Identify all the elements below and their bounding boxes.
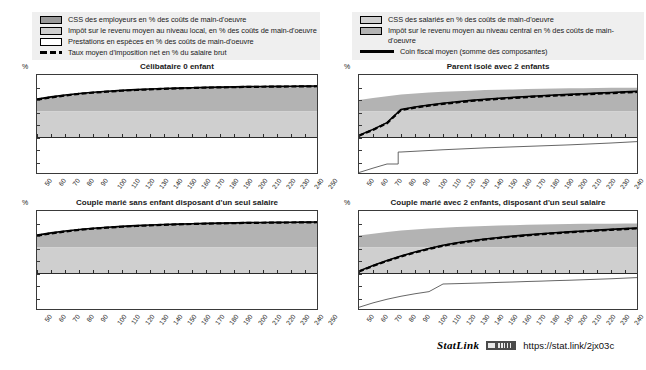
x-tick-label: 150 bbox=[186, 177, 198, 190]
x-tick-label: 130 bbox=[479, 177, 491, 190]
x-tick-mark bbox=[192, 134, 193, 138]
legend-left: CSS des employeurs en % des coûts de mai… bbox=[32, 12, 320, 60]
x-tick-label: 70 bbox=[393, 177, 403, 187]
x-tick-mark bbox=[178, 270, 179, 274]
x-tick-label: 190 bbox=[563, 313, 575, 326]
x-tick-mark bbox=[443, 134, 444, 138]
y-tick-mark bbox=[359, 138, 362, 139]
x-tick-mark bbox=[401, 270, 402, 274]
x-tick-mark bbox=[555, 270, 556, 274]
chart-panel-couple-2-enfants: Couple marié avec 2 enfants, disposant d… bbox=[326, 198, 646, 344]
x-tick-label: 50 bbox=[365, 313, 375, 323]
x-tick-label: 90 bbox=[421, 313, 431, 323]
area-central-income-tax bbox=[359, 223, 638, 247]
area-central-income-tax bbox=[37, 86, 318, 111]
x-tick-mark bbox=[263, 134, 264, 138]
x-tick-label: 100 bbox=[115, 177, 127, 190]
x-tick-mark bbox=[457, 134, 458, 138]
x-tick-label: 240 bbox=[313, 313, 325, 326]
x-tick-mark bbox=[93, 270, 94, 274]
y-tick-mark bbox=[37, 150, 40, 151]
x-tick-label: 140 bbox=[172, 313, 184, 326]
x-tick-mark bbox=[583, 134, 584, 138]
x-tick-mark bbox=[277, 134, 278, 138]
statlink-url[interactable]: https://stat.link/2jx03c bbox=[523, 340, 614, 351]
x-tick-mark bbox=[79, 134, 80, 138]
legend-label: Taux moyen d'imposition net en % du sala… bbox=[68, 48, 226, 58]
x-tick-mark bbox=[206, 270, 207, 274]
y-tick-mark bbox=[37, 88, 40, 89]
x-tick-label: 120 bbox=[465, 313, 477, 326]
x-tick-label: 230 bbox=[298, 313, 310, 326]
x-tick-label: 220 bbox=[284, 177, 296, 190]
legend-item-tax-wedge: Coin fiscal moyen (somme des composantes… bbox=[360, 47, 644, 58]
legend-label: CSS des employeurs en % des coûts de mai… bbox=[68, 15, 246, 25]
x-tick-label: 80 bbox=[407, 313, 417, 323]
x-tick-label: 100 bbox=[115, 313, 127, 326]
x-tick-label: 70 bbox=[393, 313, 403, 323]
x-tick-mark bbox=[305, 270, 306, 274]
x-tick-mark bbox=[555, 134, 556, 138]
x-tick-mark bbox=[164, 134, 165, 138]
x-tick-label: 140 bbox=[493, 313, 505, 326]
x-tick-mark bbox=[150, 270, 151, 274]
x-tick-label: 190 bbox=[242, 177, 254, 190]
x-tick-mark bbox=[291, 134, 292, 138]
statlink-word: StatLink bbox=[437, 339, 479, 351]
y-tick-mark bbox=[359, 88, 362, 89]
x-tick-label: 200 bbox=[577, 177, 589, 190]
y-tick-mark bbox=[37, 113, 40, 114]
x-tick-mark bbox=[513, 270, 514, 274]
x-tick-label: 220 bbox=[284, 313, 296, 326]
x-tick-mark bbox=[485, 134, 486, 138]
x-tick-mark bbox=[401, 134, 402, 138]
x-tick-label: 150 bbox=[186, 313, 198, 326]
area-central-income-tax bbox=[359, 88, 638, 112]
x-tick-label: 180 bbox=[549, 177, 561, 190]
y-tick-mark bbox=[37, 286, 40, 287]
panel-title: Célibataire 0 enfant bbox=[36, 62, 318, 72]
x-tick-label: 200 bbox=[256, 177, 268, 190]
y-axis-unit-label: % bbox=[344, 199, 350, 206]
x-tick-mark bbox=[569, 134, 570, 138]
x-tick-mark bbox=[79, 270, 80, 274]
x-tick-label: 50 bbox=[365, 177, 375, 187]
x-tick-mark bbox=[527, 270, 528, 274]
y-tick-mark bbox=[37, 261, 40, 262]
x-tick-label: 150 bbox=[507, 177, 519, 190]
x-tick-mark bbox=[541, 134, 542, 138]
x-tick-label: 140 bbox=[493, 177, 505, 190]
x-tick-mark bbox=[277, 270, 278, 274]
x-tick-mark bbox=[136, 270, 137, 274]
x-tick-mark bbox=[249, 270, 250, 274]
x-tick-label: 210 bbox=[270, 313, 282, 326]
x-tick-label: 90 bbox=[421, 177, 431, 187]
legend-item-employee-ssc: CSS des salariés en % des coûts de main-… bbox=[360, 15, 644, 26]
legend-label: Impôt sur le revenu moyen au niveau cent… bbox=[388, 26, 620, 45]
x-tick-label: 60 bbox=[57, 313, 67, 323]
x-tick-label: 170 bbox=[214, 177, 226, 190]
legend-label: Impôt sur le revenu moyen au niveau loca… bbox=[68, 26, 317, 36]
x-tick-label: 150 bbox=[507, 313, 519, 326]
x-tick-mark bbox=[373, 270, 374, 274]
x-tick-mark bbox=[597, 270, 598, 274]
x-tick-mark bbox=[136, 134, 137, 138]
y-tick-mark bbox=[359, 224, 362, 225]
x-tick-mark bbox=[415, 134, 416, 138]
x-tick-label: 100 bbox=[437, 313, 449, 326]
x-tick-label: 230 bbox=[298, 177, 310, 190]
x-tick-mark bbox=[249, 134, 250, 138]
x-tick-label: 130 bbox=[157, 177, 169, 190]
plot-series-canvas bbox=[359, 211, 638, 310]
y-tick-mark bbox=[37, 100, 40, 101]
y-tick-mark bbox=[37, 125, 40, 126]
line-cash-benefits bbox=[359, 142, 638, 173]
x-tick-mark bbox=[583, 270, 584, 274]
x-tick-label: 190 bbox=[563, 177, 575, 190]
x-tick-mark bbox=[234, 270, 235, 274]
area-central-income-tax bbox=[37, 222, 318, 247]
legend-swatch-light-gray bbox=[40, 27, 62, 35]
x-tick-label: 200 bbox=[577, 313, 589, 326]
x-tick-mark bbox=[65, 270, 66, 274]
legend-item-central-income-tax: Impôt sur le revenu moyen au niveau cent… bbox=[360, 26, 644, 46]
